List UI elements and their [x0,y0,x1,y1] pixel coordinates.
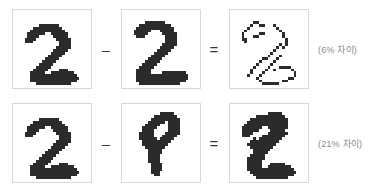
digit-2-c-canvas [13,104,91,182]
digit-2-b-canvas [122,10,200,88]
right-image-cell [121,103,201,183]
digit-image-box [12,103,92,183]
minus-operator: – [96,9,116,89]
left-image-cell [12,9,92,89]
digit-image-box [121,103,201,183]
difference-2-vs-2-canvas [230,10,308,88]
comparison-sheet: – = (6% 차이) – = [0,0,380,195]
left-image-cell [12,103,92,183]
difference-image-box [229,103,309,183]
equals-operator: = [204,9,224,89]
comparison-row: – = (6% 차이) [0,9,380,91]
digit-image-box [12,9,92,89]
digit-9-canvas [122,104,200,182]
difference-percent-label: (6% 차이) [318,9,357,89]
digit-image-box [121,9,201,89]
comparison-row: – = (21% 차이) [0,103,380,185]
diff-image-cell [229,9,309,89]
difference-percent-label: (21% 차이) [318,103,362,183]
right-image-cell [121,9,201,89]
difference-image-box [229,9,309,89]
minus-operator: – [96,103,116,183]
difference-2-vs-9-canvas [230,104,308,182]
digit-2-a-canvas [13,10,91,88]
diff-image-cell [229,103,309,183]
equals-operator: = [204,103,224,183]
